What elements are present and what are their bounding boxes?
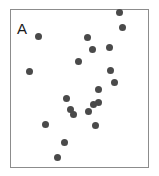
plot-frame <box>10 9 149 168</box>
scatter-plot-figure: A <box>0 0 159 176</box>
panel-label-a: A <box>17 21 27 36</box>
